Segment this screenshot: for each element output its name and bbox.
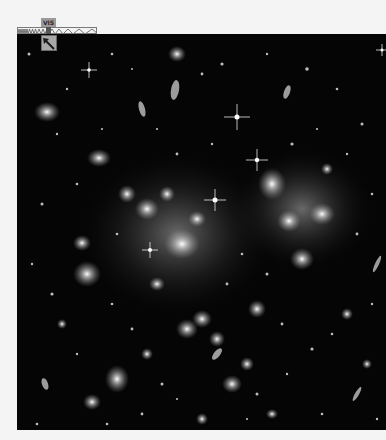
galaxy-cluster-image: [17, 34, 386, 430]
spectrum-band-indicator: [17, 27, 97, 34]
deep-field-image: [17, 34, 386, 430]
vis-band-label: VIS: [41, 18, 56, 27]
orientation-arrow-icon: [41, 35, 57, 51]
